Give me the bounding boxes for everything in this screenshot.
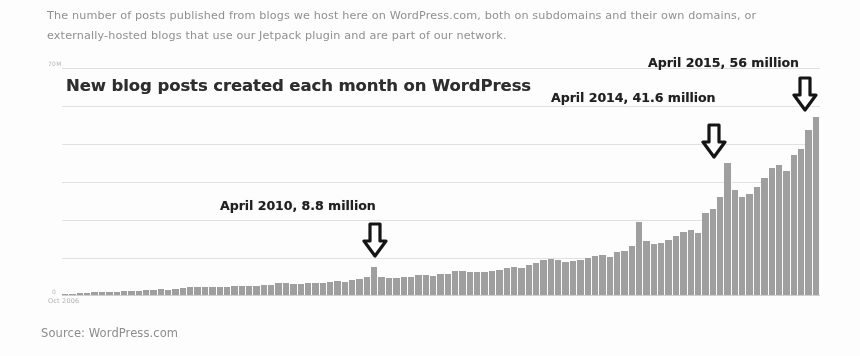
bar (246, 286, 253, 296)
bar (585, 258, 592, 295)
annotation-label-april-2015: April 2015, 56 million (648, 55, 799, 70)
bar (504, 268, 511, 295)
bar (496, 270, 503, 295)
bar (202, 287, 209, 295)
bar (688, 230, 695, 295)
bar (570, 261, 577, 295)
bar (526, 265, 533, 295)
bar (769, 168, 776, 295)
bar (334, 281, 341, 295)
bar (320, 283, 327, 295)
bar (798, 149, 805, 295)
bar (562, 262, 569, 295)
bar (813, 117, 820, 295)
x-axis-baseline (62, 295, 820, 296)
bar (665, 240, 672, 295)
bar (702, 213, 709, 295)
bar (231, 286, 238, 295)
down-arrow-icon (701, 123, 727, 159)
bar (253, 286, 260, 295)
bar (415, 275, 422, 295)
bar (224, 287, 231, 295)
bar (378, 277, 385, 295)
bar (489, 271, 496, 295)
bar (371, 267, 378, 295)
bar (290, 284, 297, 295)
bar (643, 241, 650, 295)
bar (445, 274, 452, 295)
bar (717, 197, 724, 295)
bar (607, 257, 614, 295)
bar (710, 209, 717, 295)
bar (430, 276, 437, 295)
bar (518, 268, 525, 295)
source-label: Source: WordPress.com (41, 326, 178, 340)
bar (805, 130, 812, 295)
bar (474, 272, 481, 295)
bar (673, 236, 680, 295)
y-axis-top-tick-label: 70M (48, 60, 62, 67)
bar (437, 274, 444, 295)
bar (776, 165, 783, 295)
bar (408, 277, 415, 295)
bar (732, 190, 739, 295)
bar (356, 279, 363, 295)
bar (791, 155, 798, 295)
annotation-label-april-2014: April 2014, 41.6 million (551, 90, 715, 105)
bar (327, 282, 334, 295)
bar (739, 197, 746, 295)
annotation-label-april-2010: April 2010, 8.8 million (220, 198, 376, 213)
bar (423, 275, 430, 295)
caption-line-2: externally-hosted blogs that use our Jet… (47, 26, 787, 46)
bar (754, 187, 761, 295)
x-axis-start-tick-label: Oct 2006 (48, 297, 79, 305)
down-arrow-icon (362, 222, 388, 258)
bar (180, 288, 187, 295)
bar (651, 244, 658, 295)
caption-line-1: The number of posts published from blogs… (47, 6, 787, 26)
bar (312, 283, 319, 295)
bar (239, 286, 246, 296)
bar (783, 171, 790, 295)
bar (629, 246, 636, 295)
bar (194, 287, 201, 295)
bar (298, 284, 305, 295)
bar (680, 232, 687, 295)
bar (393, 278, 400, 295)
bar (614, 252, 621, 295)
y-axis-zero-tick-label: 0 (52, 288, 56, 295)
bar (467, 272, 474, 295)
bar (386, 278, 393, 295)
bar (548, 259, 555, 295)
bar (268, 285, 275, 295)
bar (452, 271, 459, 295)
bar-series (62, 73, 820, 295)
bar (621, 251, 628, 295)
chart-title: New blog posts created each month on Wor… (66, 76, 531, 95)
down-arrow-icon (792, 76, 818, 112)
infographic-chart-panel: The number of posts published from blogs… (0, 0, 860, 356)
bar (481, 272, 488, 295)
bar (577, 260, 584, 295)
bar (511, 267, 518, 295)
bar (599, 255, 606, 295)
chart-caption: The number of posts published from blogs… (47, 6, 787, 46)
bar (187, 287, 194, 295)
bar (342, 282, 349, 295)
bar (540, 260, 547, 295)
bar (459, 271, 466, 295)
bar (261, 285, 268, 295)
bar (636, 222, 643, 295)
bar (533, 263, 540, 295)
bar (746, 194, 753, 295)
bar (761, 178, 768, 295)
bar (217, 287, 224, 295)
bar (658, 243, 665, 295)
bar (724, 163, 731, 295)
bar (592, 256, 599, 295)
bar (401, 277, 408, 295)
bar (209, 287, 216, 295)
bar (275, 283, 282, 295)
bar (349, 280, 356, 295)
bar (364, 277, 371, 295)
